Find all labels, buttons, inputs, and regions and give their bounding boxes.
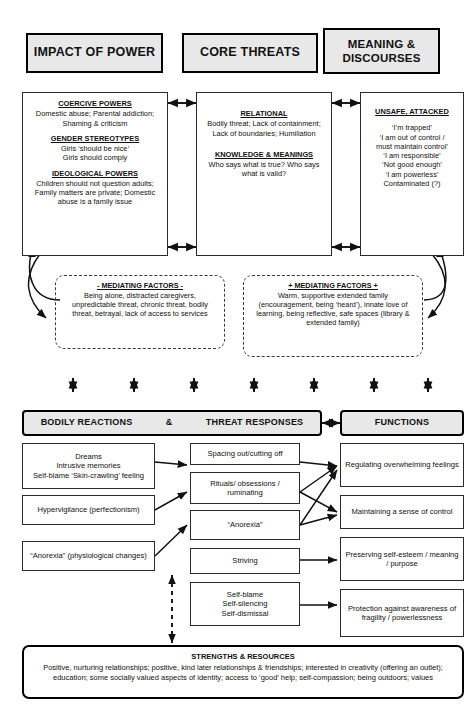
threat-response-1: Rituals/ obsessions / ruminating [194, 479, 296, 498]
bodily-reaction-1: Hypervigilance (perfectionism) [37, 505, 139, 514]
header-threat-responses-label: THREAT RESPONSES [206, 417, 304, 428]
impact-of-power-content: COERCIVE POWERS Domestic abuse; Parental… [22, 92, 168, 256]
header-impact-of-power-label: IMPACT OF POWER [34, 45, 156, 61]
header-bodily-threat-bar: BODILY REACTIONS & THREAT RESPONSES [22, 410, 322, 436]
meaning-line-2: must maintain control’ [376, 142, 448, 151]
header-core-threats-label: CORE THREATS [200, 45, 300, 61]
function-item: Preserving self-esteem / meaning / purpo… [340, 537, 464, 581]
threat-response-3: Striving [232, 556, 257, 565]
core-threats-content: RELATIONAL Bodily threat; Lack of contai… [196, 92, 332, 256]
threat-response-item: Self-blame Self-silencing Self-dismissal [190, 582, 300, 626]
function-2: Preserving self-esteem / meaning / purpo… [344, 550, 460, 569]
bodily-reaction-item: “Anorexia” (physiological changes) [22, 541, 155, 571]
mediating-negative-body: Being alone, distracted caregivers, unpr… [72, 291, 208, 318]
mediating-factors-positive: + MEDIATING FACTORS + Warm, supportive e… [243, 275, 423, 357]
header-meaning-line2: DISCOURSES [342, 51, 420, 65]
knowledge-meanings-body: Who says what is true? Who says what is … [209, 160, 320, 178]
threat-response-item: Striving [190, 548, 300, 574]
bodily-reaction-item: Hypervigilance (perfectionism) [22, 495, 155, 525]
function-0: Regulating overwhelming feelings [345, 460, 459, 469]
meaning-line-6: Contaminated (?) [383, 179, 440, 188]
header-meaning-discourses: MEANING & DISCOURSES [323, 28, 440, 74]
function-1: Maintaining a sense of control [352, 507, 453, 516]
diagram-canvas: IMPACT OF POWER CORE THREATS MEANING & D… [0, 0, 471, 725]
threat-response-4: Self-blame Self-silencing Self-dismissal [222, 590, 269, 618]
bodily-reaction-item: Dreams Intrusive memories Self-blame ‘Sk… [22, 443, 155, 489]
function-item: Protection against awareness of fragilit… [340, 589, 464, 637]
header-bodily-reactions-label: BODILY REACTIONS [41, 417, 133, 428]
threat-response-0: Spacing out/cutting off [207, 449, 282, 458]
gender-stereotypes-line1: Girls ‘should be nice’ [61, 144, 129, 153]
meaning-line-5: ‘I am powerless’ [386, 170, 439, 179]
ideological-powers-body: Children should not question adults; Fam… [35, 179, 155, 207]
meaning-line-4: ‘Not good enough’ [382, 160, 442, 169]
mediating-positive-body: Warm, supportive extended family (encour… [256, 291, 409, 327]
coercive-powers-title: COERCIVE POWERS [27, 99, 163, 108]
function-item: Regulating overwhelming feelings [340, 443, 464, 487]
function-3: Protection against awareness of fragilit… [344, 604, 460, 623]
strengths-and-resources: STRENGTHS & RESOURCES Positive, nurturin… [22, 645, 464, 699]
threat-response-2: “Anorexia” [227, 520, 262, 529]
strengths-title: STRENGTHS & RESOURCES [32, 652, 454, 661]
header-functions-label: FUNCTIONS [375, 417, 429, 428]
unsafe-attacked-title: UNSAFE, ATTACKED [365, 107, 459, 116]
header-core-threats: CORE THREATS [182, 33, 318, 73]
threat-response-item: “Anorexia” [190, 510, 300, 540]
header-ampersand: & [166, 417, 173, 428]
meaning-line-0: ‘I’m trapped’ [392, 123, 432, 132]
function-item: Maintaining a sense of control [340, 495, 464, 529]
mediating-negative-title: - MEDIATING FACTORS - [62, 281, 218, 290]
strengths-body: Positive, nurturing relationships; posit… [43, 663, 443, 681]
mediating-factors-negative: - MEDIATING FACTORS - Being alone, distr… [55, 275, 225, 349]
meaning-line-3: ‘I am responsible’ [383, 151, 441, 160]
gender-stereotypes-line2: Girls should comply [63, 153, 127, 162]
header-impact-of-power: IMPACT OF POWER [26, 33, 163, 73]
ideological-powers-title: IDEOLOGICAL POWERS [27, 169, 163, 178]
threat-response-item: Rituals/ obsessions / ruminating [190, 472, 300, 504]
coercive-powers-body: Domestic abuse; Parental addiction; Sham… [36, 109, 154, 127]
knowledge-meanings-title: KNOWLEDGE & MEANINGS [201, 150, 327, 159]
meaning-discourses-content: UNSAFE, ATTACKED ‘I’m trapped’ ‘I am out… [360, 92, 464, 256]
gender-stereotypes-title: GENDER STEREOTYPES [27, 134, 163, 143]
bodily-reaction-2: “Anorexia” (physiological changes) [30, 551, 147, 560]
relational-body: Bodily threat; Lack of containment; Lack… [207, 119, 320, 137]
meaning-line-1: ‘I am out of control / [380, 133, 445, 142]
mediating-positive-title: + MEDIATING FACTORS + [250, 281, 416, 290]
header-functions: FUNCTIONS [340, 410, 464, 436]
threat-response-item: Spacing out/cutting off [190, 443, 300, 465]
relational-title: RELATIONAL [201, 109, 327, 118]
header-meaning-line1: MEANING & [348, 37, 416, 51]
bodily-reaction-0: Dreams Intrusive memories Self-blame ‘Sk… [33, 452, 144, 480]
